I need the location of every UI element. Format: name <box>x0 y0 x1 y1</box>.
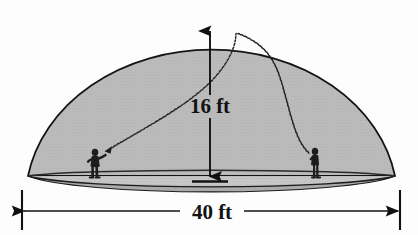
diagram-canvas: 16 ft 40 ft <box>0 0 418 235</box>
whispering-dome-figure: 16 ft 40 ft <box>0 0 418 235</box>
height-dimension-label: 16 ft <box>190 94 230 118</box>
width-dimension-label: 40 ft <box>192 200 232 224</box>
dome-group <box>28 50 395 192</box>
width-dimension: 40 ft <box>22 190 400 230</box>
